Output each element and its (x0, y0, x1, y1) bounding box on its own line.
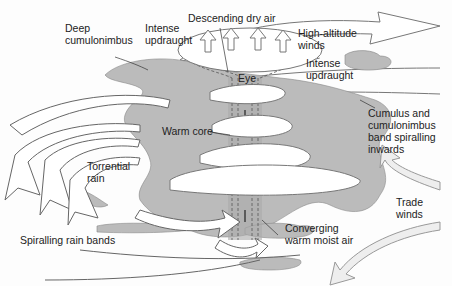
inflow-arrow-6 (215, 238, 268, 258)
label-intense-updraught-right: Intense updraught (306, 57, 353, 81)
label-eye: Eye (238, 72, 256, 84)
label-intense-updraught-left: Intense updraught (145, 22, 192, 46)
label-descending-dry-air: Descending dry air (188, 12, 276, 24)
label-torrential-rain: Torrential rain (87, 160, 130, 184)
label-spiralling-rain-bands: Spiralling rain bands (20, 234, 115, 246)
cyclone-diagram: Deep cumulonimbus Intense updraught Desc… (0, 0, 452, 286)
label-high-altitude-winds: High-altitude winds (298, 27, 357, 51)
label-cumulus-band: Cumulus and cumulonimbus band spiralling… (368, 107, 436, 155)
label-converging-warm-moist-air: Converging warm moist air (285, 222, 353, 246)
label-deep-cumulonimbus: Deep cumulonimbus (65, 22, 133, 46)
label-warm-core: Warm core (162, 125, 213, 137)
label-trade-winds: Trade winds (396, 196, 423, 220)
